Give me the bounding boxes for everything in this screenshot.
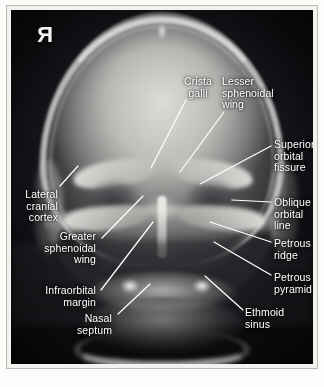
- annotation-label-oblique-orbital-line: Oblique orbital line: [274, 197, 313, 232]
- page-canvas: R Crista galliLesser sphenoidal wingSupe…: [0, 0, 324, 387]
- leader-line-petrous-ridge: [210, 222, 271, 242]
- leader-line-crista-galli: [151, 100, 186, 168]
- radiograph-frame: R Crista galliLesser sphenoidal wingSupe…: [6, 5, 318, 369]
- leader-line-superior-orbital-fissure: [200, 146, 271, 184]
- leader-line-greater-sphenoidal-wing: [102, 196, 143, 238]
- annotation-label-greater-sphenoidal-wing: Greater sphenoidal wing: [14, 231, 96, 266]
- annotation-label-superior-orbital-fissure: Superior orbital fissure: [274, 139, 313, 174]
- annotation-label-crista-galli: Crista galli: [178, 76, 218, 99]
- leader-line-oblique-orbital-line: [232, 200, 271, 202]
- annotation-label-ethmoid-sinus: Ethmoid sinus: [245, 307, 301, 330]
- leader-line-lateral-cranial-cortex: [60, 166, 78, 186]
- skull-radiograph-image: R Crista galliLesser sphenoidal wingSupe…: [11, 10, 313, 364]
- annotation-label-nasal-septum: Nasal septum: [54, 313, 112, 336]
- leader-line-nasal-septum: [118, 284, 150, 314]
- annotation-label-petrous-pyramid: Petrous pyramid: [274, 272, 313, 295]
- leader-line-ethmoid-sinus: [205, 276, 243, 310]
- leader-line-lesser-sphenoidal-wing: [180, 112, 224, 172]
- annotation-label-petrous-ridge: Petrous ridge: [274, 238, 313, 261]
- annotation-label-lesser-sphenoidal-wing: Lesser sphenoidal wing: [222, 76, 286, 111]
- leader-line-infraorbital-margin: [101, 222, 153, 290]
- leader-line-petrous-pyramid: [214, 242, 271, 275]
- annotation-label-infraorbital-margin: Infraorbital margin: [14, 285, 96, 308]
- annotation-label-lateral-cranial-cortex: Lateral cranial cortex: [11, 189, 58, 224]
